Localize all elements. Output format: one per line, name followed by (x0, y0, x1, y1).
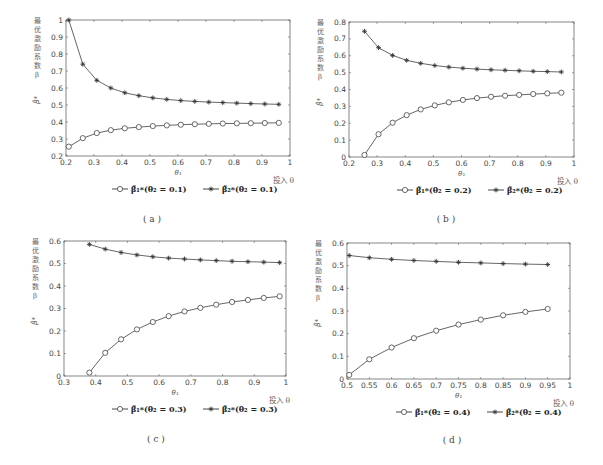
series-2-star-marker (80, 62, 85, 67)
y-axis-label-char: β (318, 73, 322, 81)
series-2-star-marker (390, 53, 395, 58)
y-axis-symbol: β̃* (32, 96, 41, 104)
x-tick-label: 0.4 (399, 159, 411, 168)
series-1-circle-marker (446, 100, 451, 105)
legend: β̃₁*(θ₂ = 0.4)β̃₂*(θ₂ = 0.4) (396, 407, 562, 417)
y-tick-label: 0 (56, 372, 61, 381)
chart-panel-b: 0.20.30.40.50.60.70.80.9100.10.20.30.40.… (315, 18, 579, 224)
series-2-star-marker (376, 45, 381, 50)
y-tick-label: 0.6 (51, 84, 63, 93)
series-2-star-marker (66, 18, 71, 23)
x-tick-label: 0.6 (172, 158, 184, 167)
legend-entry-2: β̃₂*(θ₂ = 0.1) (222, 184, 278, 194)
series-1 (66, 120, 281, 149)
series-2-star-marker (198, 258, 203, 263)
series-line (69, 20, 279, 104)
y-axis-label-char: 激 (315, 257, 322, 266)
series-1-circle-marker (517, 92, 522, 97)
series-1-circle-marker (262, 120, 267, 125)
series-line (69, 123, 279, 147)
series-1-circle-marker (523, 309, 528, 314)
y-tick-label: 0.5 (51, 101, 63, 110)
y-tick-label: 0.5 (334, 68, 346, 77)
y-tick-label: 0.5 (49, 259, 61, 268)
x-tick-label: 0.7 (185, 378, 197, 387)
y-axis-label-char: 数 (32, 282, 39, 291)
y-axis-label-char: 系 (32, 273, 39, 282)
y-tick-label: 0.3 (49, 304, 61, 313)
series-line (349, 309, 548, 375)
y-axis-label-char: 励 (32, 265, 39, 273)
x-tick-label: 0.8 (228, 158, 240, 167)
series-2-star-marker (206, 100, 211, 105)
y-axis-label-char: 系 (315, 275, 322, 284)
series-2-star-marker (478, 261, 483, 266)
series-2-star-marker (523, 262, 528, 267)
series-2-star-marker (456, 260, 461, 265)
x-tick-label: 1 (284, 378, 289, 387)
x-tick-label: 1 (288, 158, 293, 167)
x-axis-label: θ₁ (174, 169, 181, 177)
series-1-circle-marker (478, 317, 483, 322)
subfigure-caption: ( c ) (147, 434, 165, 444)
x-tick-label: 0.5 (144, 158, 156, 167)
series-1-circle-marker (404, 113, 409, 118)
series-1-circle-marker (166, 314, 171, 319)
y-tick-label: 0.9 (51, 33, 63, 42)
y-tick-label: 0.6 (334, 51, 346, 60)
series-2-star-marker (192, 99, 197, 104)
y-tick-label: 0.7 (51, 67, 63, 76)
y-tick-label: 0.2 (334, 119, 346, 128)
x-tick-label: 0.3 (88, 158, 100, 167)
y-tick-label: 0.2 (51, 152, 63, 161)
y-axis-label-char: 最 (32, 238, 39, 246)
x-tick-label: 0.9 (256, 158, 268, 167)
series-1-circle-marker (118, 337, 123, 342)
x-tick-label: 0.6 (456, 159, 468, 168)
series-2-star-marker (389, 257, 394, 262)
y-axis-label-char: 最 (34, 17, 41, 25)
series-2-star-marker (119, 250, 124, 255)
x-tick-label: 0.9 (248, 378, 260, 387)
series-2-star-marker (164, 97, 169, 102)
legend-2-star-marker (209, 407, 214, 412)
legend: β̃₁*(θ₂ = 0.1)β̃₂*(θ₂ = 0.1) (112, 184, 278, 194)
legend-2-star-marker (493, 410, 498, 415)
y-axis-label-char: 系 (317, 54, 324, 63)
series-1-circle-marker (248, 121, 253, 126)
x-tick-label: 0.7 (430, 381, 442, 390)
series-2 (347, 253, 550, 267)
series-1-circle-marker (347, 372, 352, 377)
series-1-circle-marker (432, 103, 437, 108)
y-tick-label: 0.3 (332, 307, 344, 316)
series-1-circle-marker (276, 120, 281, 125)
series-2-star-marker (475, 67, 480, 72)
series-2-star-marker (412, 258, 417, 263)
y-tick-label: 0.4 (332, 284, 344, 293)
series-1-circle-marker (192, 122, 197, 127)
legend-entry-2: β̃₂*(θ₂ = 0.3) (222, 404, 278, 414)
x-tick-label: 0.5 (121, 378, 133, 387)
legend-1-circle-marker (117, 406, 122, 411)
x-tick-label: 0.6 (386, 381, 398, 390)
legend-entry-1: β̃₁*(θ₂ = 0.4) (415, 407, 471, 417)
series-2-star-marker (418, 61, 423, 66)
series-1-circle-marker (87, 370, 92, 375)
x-tick-label: 0.9 (540, 159, 552, 168)
y-tick-label: 0.2 (49, 327, 61, 336)
y-tick-label: 0.3 (51, 135, 63, 144)
y-axis-label-char: β (35, 71, 39, 79)
y-tick-label: 0 (341, 153, 346, 162)
y-axis-label-char: 激 (32, 255, 39, 264)
series-1-circle-marker (234, 121, 239, 126)
chart-panel-a: 0.20.30.40.50.60.70.80.910.20.30.40.50.6… (32, 16, 295, 224)
y-axis-label-char: 系 (34, 52, 41, 61)
y-axis-symbol: β̃* (315, 98, 324, 106)
series-2-star-marker (461, 66, 466, 71)
x-tick-label: 0.7 (484, 159, 496, 168)
chart-panel-c: 0.30.40.50.60.70.80.9100.10.20.30.40.50.… (30, 237, 291, 444)
y-tick-label: 0.1 (334, 136, 346, 145)
series-1-circle-marker (108, 128, 113, 133)
series-1-circle-marker (150, 319, 155, 324)
x-tick-label: 1 (572, 159, 577, 168)
